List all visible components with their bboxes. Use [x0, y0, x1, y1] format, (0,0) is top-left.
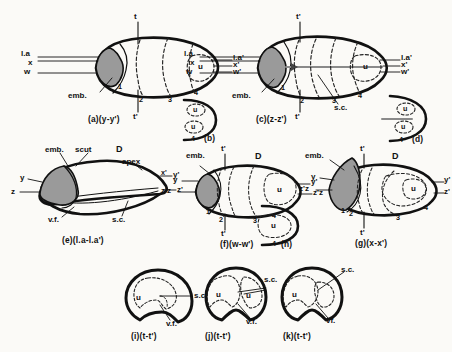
panel-a-region-2: 2	[139, 96, 143, 103]
panel-g-region-1: 1	[341, 207, 345, 214]
panel-j-label-sc: s.c.	[264, 276, 277, 284]
panel-a-axis-bottom-label: t'	[133, 113, 138, 121]
panel-h-caption: (h)	[281, 240, 292, 248]
panel-b-region-4: 4	[191, 135, 195, 142]
panel-f-region-2: 2	[219, 216, 223, 223]
panel-g-label-u: u	[411, 185, 416, 193]
panel-c-label-sc: s.c.	[334, 104, 347, 112]
panel-g-axis-top-label: t'	[360, 145, 365, 153]
panel-a-label-w-prime: w'	[233, 68, 241, 76]
panel-d-label-u-1: u	[403, 105, 407, 112]
panel-g-label-y-prime: y'	[444, 176, 450, 184]
panel-g-label-y: y	[311, 173, 315, 181]
panel-i-label-vf: v.f.	[166, 320, 177, 328]
panel-i-caption: (i)(t-t')	[131, 332, 157, 340]
panel-c-axis-top-label: t'	[296, 13, 301, 21]
panel-g-label-z-prime: z'	[444, 188, 450, 196]
panel-g-caption: (g)(x-x')	[355, 239, 387, 247]
panel-c-region-4: 4	[358, 92, 362, 99]
panel-d-caption: (d)	[412, 135, 423, 143]
panel-f-label-u: u	[277, 186, 282, 194]
panel-c-region-2: 2	[300, 97, 304, 104]
panel-e-label-emb: emb.	[45, 146, 64, 154]
panel-b-label-u-1: u	[193, 106, 197, 113]
panel-a-region-1: 1	[118, 83, 122, 90]
panel-f-region-3: 3	[253, 217, 257, 224]
panel-g-axis-bottom-label: t'	[360, 229, 365, 237]
panel-c-axis-bottom-label: t'	[295, 113, 300, 121]
panel-b-label-u-2: u	[191, 123, 195, 130]
panel-f-label-D: D	[255, 152, 262, 161]
panel-g-region-3: 3	[396, 214, 400, 221]
panel-e-label-z-prime: z'	[177, 186, 183, 194]
panel-e-label-apex: apex	[122, 158, 140, 166]
panel-e-label-y: y	[20, 174, 24, 182]
panel-c-label-emb: emb.	[232, 92, 251, 100]
panel-f-label-zz: z'z	[161, 187, 171, 195]
panel-j-caption: (j)(t-t')	[205, 332, 231, 340]
panel-g-region-4: 4	[424, 204, 428, 211]
panel-g-drawing	[316, 154, 444, 228]
panel-e-label-D: D	[116, 145, 123, 154]
panel-j-drawing	[206, 268, 266, 320]
panel-a-label-w: w	[24, 68, 30, 76]
panel-i-label-u: u	[136, 294, 141, 302]
panel-f-label-y: y	[173, 176, 177, 184]
panel-c-label-w: w	[186, 68, 192, 76]
panel-f-caption: (f)(w-w')	[220, 240, 254, 248]
figure-drawing	[0, 0, 452, 352]
panel-c-label-u: u	[363, 63, 368, 71]
panel-a-region-3: 3	[168, 96, 172, 103]
panel-j-label-u-2: u	[246, 292, 251, 300]
panel-j-label-vf: v.f.	[246, 318, 257, 326]
panel-i-label-sc: s.c.	[194, 292, 207, 300]
panel-f-drawing	[178, 154, 312, 230]
panel-f-label-emb: emb.	[186, 152, 205, 160]
panel-h-region-4: 4	[272, 240, 276, 247]
panel-f-label-x-prime-outer: x'	[161, 169, 167, 176]
panel-f-axis-top-label: t'	[221, 145, 226, 153]
panel-c-caption: (c)(z-z')	[256, 115, 287, 123]
panel-e-label-scut: scut	[75, 146, 91, 154]
panel-g-region-2: 2	[349, 210, 353, 217]
panel-e-drawing	[20, 153, 176, 217]
panel-b-caption: (b)	[204, 134, 215, 142]
panel-c-region-1: 1	[281, 84, 285, 91]
panel-d-label-u-2: u	[401, 123, 405, 130]
panel-a-axis-top-label: t	[134, 13, 137, 21]
panel-e-caption: (e)(l.a-l.a')	[62, 236, 104, 244]
panel-f-axis-bottom-label: t'	[221, 230, 226, 238]
panel-a-label-emb: emb.	[68, 92, 87, 100]
panel-d-region-4: 4	[399, 136, 403, 143]
panel-a-label-u: u	[198, 63, 203, 71]
panel-e-label-sc: s.c.	[112, 216, 125, 224]
panel-k-label-u: u	[292, 291, 297, 299]
panel-k-label-sc: s.c.	[341, 266, 354, 274]
panel-c-label-w-prime: w'	[401, 68, 409, 76]
panel-e-label-vf: v.f.	[48, 216, 59, 224]
panel-k-label-vf: vf.	[326, 317, 335, 325]
panel-a-region-4: 4	[194, 89, 198, 96]
panel-j-label-u-1: u	[216, 291, 221, 299]
panel-f-region-1: 1	[206, 208, 210, 215]
panel-g-label-D: D	[392, 152, 399, 161]
panel-a-caption: (a)(y-y')	[88, 115, 120, 123]
panel-c-label-la: l.a	[184, 50, 193, 58]
panel-h-label-u: u	[271, 222, 276, 230]
panel-g-label-emb: emb.	[305, 152, 324, 160]
panel-e-label-z: z	[11, 188, 15, 196]
panel-a-label-x: x	[28, 59, 32, 67]
panel-k-caption: (k)(t-t')	[283, 332, 311, 340]
panel-a-label-la: l.a	[21, 50, 30, 58]
panel-c-label-x: x	[190, 59, 194, 67]
panel-g-label-zz: z'z	[299, 185, 309, 193]
panel-f-label-z-prime: z'z	[313, 189, 323, 197]
scientific-figure: t t' l.a x w emb. l.a' x' w' 1 2 3 4 u (…	[0, 0, 452, 352]
panel-f-region-4: 4	[272, 212, 276, 219]
